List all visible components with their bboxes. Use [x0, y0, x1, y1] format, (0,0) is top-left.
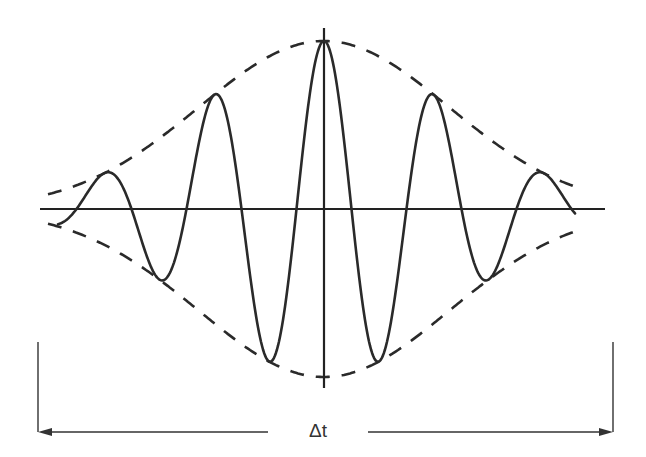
wave-packet-diagram: Δt [0, 0, 646, 457]
oscillating-wave-curve [58, 41, 575, 362]
interval-bracket: Δt [38, 342, 613, 441]
lower-envelope-curve [48, 224, 582, 377]
arrowhead-right-icon [599, 428, 613, 436]
arrowhead-left-icon [38, 428, 52, 436]
delta-t-label: Δt [309, 420, 328, 441]
